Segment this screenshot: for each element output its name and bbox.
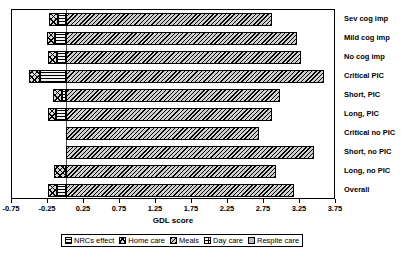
legend-label: Meals [179, 236, 199, 245]
category-label: Long, no PIC [344, 166, 390, 175]
x-axis-tick-label: 0.75 [99, 204, 139, 213]
x-axis-tick [11, 199, 12, 203]
plot-area [11, 9, 335, 199]
bar-row [12, 51, 334, 64]
bar-segment [48, 184, 57, 197]
x-axis-tick [263, 199, 264, 203]
x-axis-tick [299, 199, 300, 203]
home-swatch [119, 237, 126, 244]
legend-label: Home care [128, 236, 165, 245]
bar-segment [66, 13, 272, 26]
legend-label: Day care [213, 236, 243, 245]
x-axis-tick [155, 199, 156, 203]
category-label: No cog imp [344, 52, 385, 61]
bar-row [12, 184, 334, 197]
x-axis-tick [119, 199, 120, 203]
bar-segment [29, 70, 40, 83]
bar-segment [66, 70, 324, 83]
bar-segment [54, 165, 66, 178]
day-swatch [204, 237, 211, 244]
bar-segment [66, 89, 280, 102]
bar-segment [56, 108, 66, 121]
legend-item: Home care [119, 236, 165, 245]
bar-row [12, 70, 334, 83]
legend-item: Meals [170, 236, 199, 245]
category-label: Short, PIC [344, 90, 380, 99]
category-label: Mild cog imp [344, 33, 390, 42]
x-axis-tick [191, 199, 192, 203]
bar-segment [49, 13, 58, 26]
respite-swatch [248, 237, 255, 244]
bar-segment [48, 51, 57, 64]
bar-segment [66, 51, 301, 64]
bar-segment [66, 146, 314, 159]
chart-container: -0.75-0.250.250.751.251.752.252.753.253.… [0, 0, 419, 257]
bar-segment [66, 165, 276, 178]
bar-segment [55, 32, 66, 45]
x-axis-tick-label: -0.25 [27, 204, 67, 213]
bar-row [12, 146, 334, 159]
legend-item: Day care [204, 236, 243, 245]
x-axis-tick-label: 3.25 [279, 204, 319, 213]
category-label: Overall [344, 185, 369, 194]
nrcs-swatch [65, 237, 72, 244]
bar-segment [40, 70, 66, 83]
legend-label: Respite care [257, 236, 299, 245]
bar-segment [53, 89, 62, 102]
x-axis-tick [335, 199, 336, 203]
bar-segment [58, 13, 66, 26]
x-axis-tick-label: 3.75 [315, 204, 355, 213]
legend-item: Respite care [248, 236, 299, 245]
bar-row [12, 165, 334, 178]
bar-segment [48, 108, 56, 121]
x-axis-tick-label: 2.25 [207, 204, 247, 213]
x-axis-tick-label: 2.75 [243, 204, 283, 213]
legend-item: NRCs effect [65, 236, 114, 245]
bar-segment [57, 184, 66, 197]
bar-segment [66, 108, 272, 121]
x-axis-tick-label: 0.25 [63, 204, 103, 213]
legend-label: NRCs effect [74, 236, 114, 245]
x-axis-tick-label: 1.75 [171, 204, 211, 213]
category-label: Critical no PIC [344, 128, 395, 137]
x-axis-tick [227, 199, 228, 203]
category-label: Short, no PIC [344, 147, 392, 156]
bar-segment [66, 184, 294, 197]
x-axis-tick [47, 199, 48, 203]
bar-row [12, 89, 334, 102]
bar-segment [47, 32, 56, 45]
bar-row [12, 108, 334, 121]
x-axis-tick [83, 199, 84, 203]
category-label: Long, PIC [344, 109, 379, 118]
bar-segment [66, 127, 259, 140]
category-label: Sev cog imp [344, 14, 388, 23]
category-label: Critical PIC [344, 71, 384, 80]
x-axis-title: GDL score [11, 216, 335, 225]
chart-legend: NRCs effectHome careMealsDay careRespite… [61, 234, 303, 247]
bar-row [12, 13, 334, 26]
x-axis-tick-label: 1.25 [135, 204, 175, 213]
bar-segment [66, 32, 297, 45]
bar-row [12, 127, 334, 140]
meals-swatch [170, 237, 177, 244]
bar-row [12, 32, 334, 45]
bar-segment [57, 51, 66, 64]
